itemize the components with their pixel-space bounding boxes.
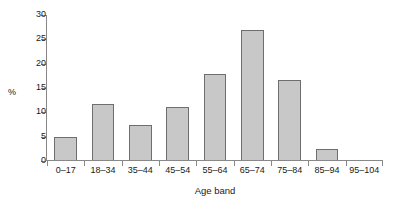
bar-group <box>47 15 84 161</box>
x-axis-tick-label: 35–44 <box>122 166 159 175</box>
x-axis-title: Age band <box>47 186 383 196</box>
bar <box>129 125 151 161</box>
bar <box>278 80 300 161</box>
y-axis-tick-label: 20 <box>12 59 46 68</box>
y-axis-tick-label: 15 <box>12 83 46 92</box>
x-axis-tick-label: 95–104 <box>346 166 383 175</box>
x-axis-tick-label: 75–84 <box>271 166 308 175</box>
x-axis-tick-labels: 0–1718–3435–4445–5455–6465–7475–8485–949… <box>47 166 383 180</box>
plot-area <box>47 15 383 161</box>
bar-group <box>159 15 196 161</box>
y-axis-tick-label: 10 <box>12 107 46 116</box>
bar <box>92 104 114 161</box>
x-axis-tick-label: 45–54 <box>159 166 196 175</box>
y-axis-tick-label: 0 <box>12 156 46 165</box>
bar <box>204 74 226 161</box>
y-axis-tick-label: 25 <box>12 34 46 43</box>
y-axis-ticks: 051015202530 <box>0 0 46 207</box>
x-axis-tick-label: 55–64 <box>196 166 233 175</box>
bar-group <box>196 15 233 161</box>
bar-group <box>122 15 159 161</box>
x-axis-tick-label: 0–17 <box>47 166 84 175</box>
bar-group <box>84 15 121 161</box>
bar <box>166 107 188 162</box>
bar-group <box>234 15 271 161</box>
bar-group <box>271 15 308 161</box>
bar-group <box>346 15 383 161</box>
y-axis-tick-label: 5 <box>12 132 46 141</box>
x-axis-tick-label: 65–74 <box>234 166 271 175</box>
bar-chart: % 051015202530 0–1718–3435–4445–5455–646… <box>0 0 396 207</box>
bar-group <box>308 15 345 161</box>
x-axis-tick-label: 85–94 <box>308 166 345 175</box>
x-axis-tick-label: 18–34 <box>84 166 121 175</box>
bar <box>54 137 76 161</box>
bar <box>241 30 263 161</box>
y-axis-tick-label: 30 <box>12 10 46 19</box>
